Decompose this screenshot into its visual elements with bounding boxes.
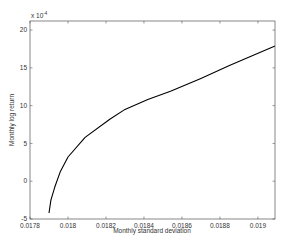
y-axis-label: Monthly log return — [8, 94, 16, 146]
y-tick-label: 0 — [23, 177, 27, 184]
y-tick-label: 20 — [20, 26, 28, 33]
x-axis-label: Monthly standard deviation — [113, 227, 191, 235]
y-tick-label: 5 — [23, 140, 27, 147]
y-tick-label: -5 — [21, 215, 27, 222]
y-tick-label: 10 — [20, 102, 28, 109]
x-tick-label: 0.0178 — [20, 222, 40, 229]
x-tick-label: 0.018 — [60, 222, 77, 229]
y-tick-label: 15 — [20, 64, 28, 71]
x-tick-label: 0.019 — [250, 222, 267, 229]
chart: 0.01780.0180.01820.01840.01860.01880.019… — [0, 0, 289, 248]
chart-background — [0, 0, 289, 248]
x-tick-label: 0.0188 — [210, 222, 230, 229]
